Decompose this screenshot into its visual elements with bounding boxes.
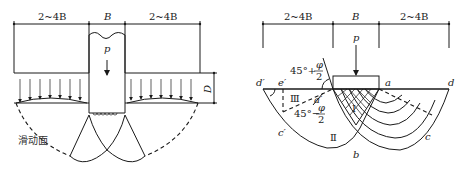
slip-surface-label: 滑动面 <box>18 135 48 146</box>
angle-top-label: 45°+ φ 2 <box>290 59 323 82</box>
svg-text:2: 2 <box>318 114 324 125</box>
surcharge-arrows-right <box>127 79 198 103</box>
angle-bottom-label: 45°− φ 2 <box>294 102 325 125</box>
point-d-prime: d′ <box>256 77 265 88</box>
slip-surfaces <box>16 103 198 162</box>
dim-center-label-r: B <box>351 11 359 22</box>
depth-dimension: D <box>202 72 215 104</box>
footing-column: p <box>89 33 125 116</box>
load-label: p <box>104 43 111 54</box>
footing <box>333 76 379 89</box>
dim-left-label-r: 2~4B <box>284 11 312 22</box>
zone-III: Ⅲ <box>290 93 300 104</box>
dim-left-label: 2~4B <box>38 11 66 22</box>
left-figure: 2~4B B 2~4B p <box>13 11 217 162</box>
bearing-capacity-diagram: 2~4B B 2~4B p <box>0 0 463 173</box>
dim-right-label-r: 2~4B <box>400 11 428 22</box>
dim-right-label: 2~4B <box>149 11 177 22</box>
point-d: d <box>448 77 454 88</box>
dim-center-label: B <box>103 11 111 22</box>
svg-text:φ: φ <box>316 59 323 70</box>
depth-label: D <box>202 85 213 94</box>
load-label-r: p <box>353 32 360 43</box>
point-e-prime: e′ <box>278 77 287 88</box>
svg-text:φ: φ <box>318 102 325 113</box>
svg-text:2: 2 <box>316 71 322 82</box>
point-c: c <box>425 131 431 142</box>
surcharge-arrows-left <box>16 79 87 103</box>
svg-text:45°−: 45°− <box>294 108 320 119</box>
point-b: b <box>353 149 359 160</box>
right-figure: 2~4B B 2~4B p 45°+ φ 2 d′ e′ a d a′ c′ c… <box>256 11 454 160</box>
zone-II: Ⅱ <box>330 132 337 143</box>
svg-text:45°+: 45°+ <box>290 65 316 76</box>
point-a: a <box>385 77 391 88</box>
point-c-prime: c′ <box>278 127 287 138</box>
